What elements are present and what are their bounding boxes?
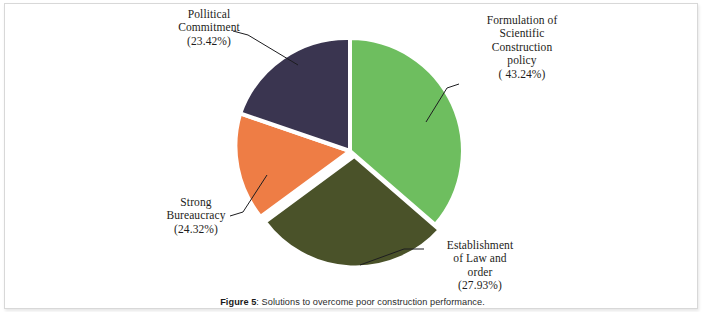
slice-label-political: Pollitical Commitment (23.42%) bbox=[150, 8, 268, 48]
pie-chart: Formulation of Scientific Construction p… bbox=[0, 0, 705, 320]
slice-label-formulation: Formulation of Scientific Construction p… bbox=[462, 14, 582, 81]
slice-label-bureaucracy: Strong Bureaucracy (24.32%) bbox=[140, 196, 252, 236]
figure-caption-text: Solutions to overcome poor construction … bbox=[262, 297, 485, 307]
figure-caption-number: Figure 5 bbox=[220, 297, 256, 307]
figure-caption: Figure 5: Solutions to overcome poor con… bbox=[0, 297, 705, 307]
pie-chart-svg bbox=[0, 0, 705, 320]
slice-label-establishment: Establishment of Law and order (27.93%) bbox=[424, 239, 536, 293]
